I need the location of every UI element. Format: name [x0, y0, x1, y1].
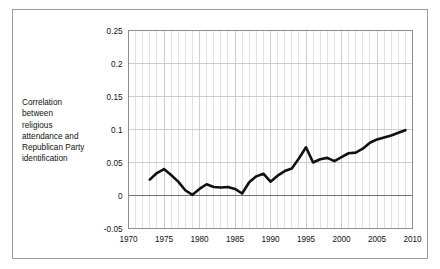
x-tick-label: 1995 [297, 235, 316, 244]
y-tick-label: 0.1 [111, 126, 123, 135]
y-tick-label: 0.15 [107, 93, 123, 102]
x-tick-label: 1970 [119, 235, 138, 244]
y-axis-tick-labels: -0.0500.050.10.150.20.25 [104, 27, 123, 234]
x-tick-label: 2005 [368, 235, 387, 244]
y-tick-label: -0.05 [104, 225, 123, 234]
y-tick-label: 0.2 [111, 60, 123, 69]
x-tick-label: 1980 [190, 235, 209, 244]
x-tick-label: 1990 [261, 235, 280, 244]
y-tick-label: 0 [118, 192, 123, 201]
y-tick-label: 0.25 [107, 27, 123, 36]
x-axis-tick-labels: 197019751980198519901995200020052010 [119, 235, 422, 244]
x-tick-label: 1985 [226, 235, 245, 244]
x-tick-label: 1975 [155, 235, 174, 244]
line-chart: -0.0500.050.10.150.20.25 197019751980198… [0, 0, 440, 269]
figure-root: Correlation between religious attendance… [0, 0, 440, 269]
x-tick-label: 2010 [403, 235, 422, 244]
y-tick-label: 0.05 [107, 159, 123, 168]
x-tick-label: 2000 [332, 235, 351, 244]
